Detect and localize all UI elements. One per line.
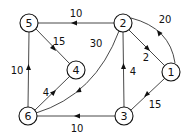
arrowhead-icon bbox=[76, 87, 82, 93]
edge-weight: 4 bbox=[130, 66, 136, 77]
arrowhead-icon bbox=[144, 91, 150, 97]
node-4: 4 bbox=[67, 61, 85, 79]
edge-1-to-3: 15 bbox=[131, 79, 164, 110]
edge-6-to-4: 4 bbox=[35, 77, 69, 110]
edge-weight: 10 bbox=[11, 65, 24, 76]
edge-weight: 30 bbox=[90, 38, 103, 49]
edge-weight: 15 bbox=[149, 99, 162, 110]
node-1: 1 bbox=[162, 63, 180, 81]
arrowhead-icon bbox=[26, 64, 31, 70]
edge-2-to-5: 10 bbox=[38, 8, 114, 26]
edge-5-to-4: 15 bbox=[36, 29, 69, 63]
edge-weight: 10 bbox=[71, 123, 84, 134]
node-3: 3 bbox=[115, 107, 133, 125]
svg-text:2: 2 bbox=[120, 17, 127, 30]
node-6: 6 bbox=[19, 107, 37, 125]
arrowhead-icon bbox=[121, 63, 126, 69]
edge-weight: 10 bbox=[70, 8, 83, 19]
node-5: 5 bbox=[20, 14, 38, 32]
edge-3-to-6: 10 bbox=[37, 114, 115, 134]
edge-6-to-5: 10 bbox=[11, 32, 31, 107]
edge-weight: 15 bbox=[53, 36, 66, 47]
node-2: 2 bbox=[114, 14, 132, 32]
arrowhead-icon bbox=[157, 30, 163, 37]
svg-text:3: 3 bbox=[121, 110, 128, 123]
edge-weight: 20 bbox=[159, 14, 172, 25]
svg-text:6: 6 bbox=[25, 110, 32, 123]
svg-text:4: 4 bbox=[73, 64, 80, 77]
edge-3-to-2: 4 bbox=[121, 32, 136, 107]
edge-weight: 4 bbox=[43, 87, 49, 98]
svg-text:1: 1 bbox=[168, 66, 175, 79]
graph-diagram: 10 20 2 4 15 15 bbox=[0, 0, 192, 138]
edge-weight: 2 bbox=[143, 52, 149, 63]
arrowhead-icon bbox=[71, 21, 77, 26]
arrowhead-icon bbox=[74, 114, 80, 119]
svg-text:5: 5 bbox=[26, 17, 33, 30]
